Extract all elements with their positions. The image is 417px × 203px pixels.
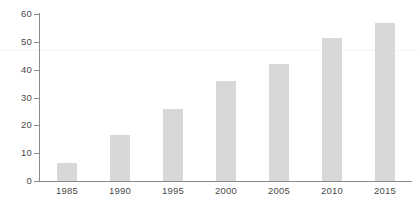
x-axis-line xyxy=(39,181,412,182)
y-axis-tick-label: 60 xyxy=(0,9,32,19)
bar[interactable] xyxy=(216,81,236,181)
y-axis-tick xyxy=(34,14,39,15)
x-axis-tick-label: 2010 xyxy=(302,186,362,196)
y-axis-tick xyxy=(34,70,39,71)
x-axis-tick-label: 1995 xyxy=(143,186,203,196)
bar[interactable] xyxy=(57,163,77,181)
y-axis-tick-label: 10 xyxy=(0,148,32,158)
x-axis-tick-label: 1990 xyxy=(90,186,150,196)
y-axis-tick-label: 50 xyxy=(0,37,32,47)
bar[interactable] xyxy=(163,109,183,181)
x-axis-tick-label: 2000 xyxy=(196,186,256,196)
y-axis-tick xyxy=(34,125,39,126)
y-axis-tick-label-text: 40 xyxy=(2,65,32,75)
bar[interactable] xyxy=(269,64,289,181)
bar[interactable] xyxy=(375,23,395,181)
y-axis-tick-label: 40 xyxy=(0,65,32,75)
x-axis-tick-label: 2005 xyxy=(249,186,309,196)
x-axis-tick-label: 2015 xyxy=(355,186,415,196)
plot-area: 0102030405060 19851990199520002005201020… xyxy=(0,0,417,203)
x-axis-tick-label: 1985 xyxy=(37,186,97,196)
bar-chart: 0102030405060 19851990199520002005201020… xyxy=(0,0,417,203)
y-axis-tick-label-text: 0 xyxy=(2,176,32,186)
y-axis-tick xyxy=(34,98,39,99)
y-axis-tick-label: 30 xyxy=(0,93,32,103)
y-axis-line xyxy=(39,13,40,182)
y-axis-tick-label-text: 30 xyxy=(2,93,32,103)
y-axis-tick-label-text: 50 xyxy=(2,37,32,47)
bar[interactable] xyxy=(322,38,342,181)
y-axis-tick-label-text: 10 xyxy=(2,148,32,158)
bar[interactable] xyxy=(110,135,130,181)
y-axis-tick xyxy=(34,42,39,43)
y-axis-tick-label: 20 xyxy=(0,120,32,130)
y-axis-tick xyxy=(34,153,39,154)
y-axis-tick-label: 0 xyxy=(0,176,32,186)
y-axis-tick xyxy=(34,181,39,182)
y-axis-tick-label-text: 60 xyxy=(2,9,32,19)
y-axis-tick-label-text: 20 xyxy=(2,120,32,130)
faint-horizontal-rule xyxy=(0,50,417,51)
